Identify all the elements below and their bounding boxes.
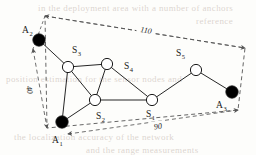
network-edge-S1-S5 xyxy=(152,70,196,100)
node-label-A1: A1 xyxy=(52,135,63,147)
node-label-A2: A2 xyxy=(22,25,33,37)
network-edge-S3-S2 xyxy=(68,67,95,100)
node-label-sub-S1: 1 xyxy=(152,114,155,121)
network-diagram: A2S3S4S5A3S1S2A1 1104090 xyxy=(0,0,256,155)
sensor-node-S1 xyxy=(146,94,157,105)
node-label-sub-A3: 3 xyxy=(223,105,226,112)
node-label-base-S3: S xyxy=(72,45,77,55)
sensor-node-S5 xyxy=(190,64,201,75)
node-label-base-S5: S xyxy=(176,48,181,58)
node-label-sub-S5: 5 xyxy=(182,53,185,60)
node-label-base-A3: A xyxy=(216,100,223,110)
node-label-S5: S5 xyxy=(176,48,185,60)
node-label-sub-A2: 2 xyxy=(29,30,32,37)
dimension-label-bottom: 90 xyxy=(150,120,165,132)
dimension-line-left xyxy=(33,49,47,128)
node-label-S3: S3 xyxy=(72,45,81,57)
node-label-base-S4: S xyxy=(124,61,129,71)
node-label-sub-S3: 3 xyxy=(78,50,81,57)
node-label-S4: S4 xyxy=(124,61,134,73)
figure-root: in the deployment area with a number of … xyxy=(0,0,256,155)
node-label-sub-S4: 4 xyxy=(130,66,134,73)
node-label-base-A2: A xyxy=(22,25,29,35)
dimension-value-left: 40 xyxy=(24,85,34,94)
anchor-node-A1 xyxy=(56,116,68,128)
sensor-node-S2 xyxy=(89,94,100,105)
node-label-base-S2: S xyxy=(96,111,101,121)
anchor-node-A3 xyxy=(226,86,238,98)
node-label-A3: A3 xyxy=(216,100,227,112)
anchor-node-A2 xyxy=(33,34,45,46)
node-label-base-S1: S xyxy=(146,109,151,119)
dimension-label-left: 40 xyxy=(24,82,36,98)
node-labels-group: A2S3S4S5A3S1S2A1 xyxy=(22,25,227,147)
network-edge-S3-A1 xyxy=(62,67,68,122)
dimension-value-top: 110 xyxy=(140,25,153,36)
network-edges-group xyxy=(39,40,232,122)
sensor-node-S4 xyxy=(101,58,112,69)
node-label-sub-S2: 2 xyxy=(102,116,105,123)
dimension-label-top: 110 xyxy=(136,24,156,37)
dimension-value-bottom: 90 xyxy=(153,121,162,131)
node-label-sub-A1: 1 xyxy=(59,140,62,147)
node-label-base-A1: A xyxy=(52,135,59,145)
node-label-S2: S2 xyxy=(96,111,105,123)
sensor-node-S3 xyxy=(62,61,73,72)
node-label-S1: S1 xyxy=(146,109,155,121)
